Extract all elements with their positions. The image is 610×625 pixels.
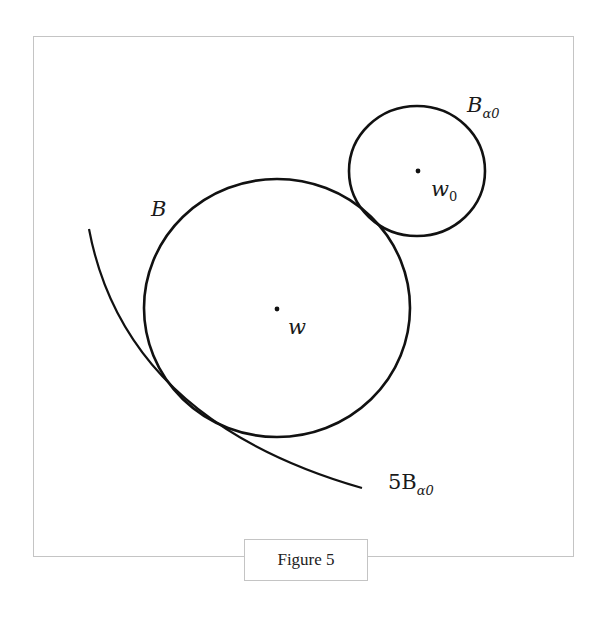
label-5b-alpha0: 5Bα0 <box>388 470 434 498</box>
arc-5b-alpha0 <box>89 229 362 488</box>
center-w0-dot <box>416 169 421 174</box>
label-b-alpha0: Bα0 <box>466 93 500 121</box>
figure-caption: Figure 5 <box>244 539 368 581</box>
center-w-dot <box>275 307 280 312</box>
label-w0: w0 <box>431 177 457 204</box>
label-b: B <box>150 197 166 221</box>
label-w: w <box>288 315 306 339</box>
figure-diagram: B w Bα0 w0 5Bα0 <box>0 0 610 625</box>
